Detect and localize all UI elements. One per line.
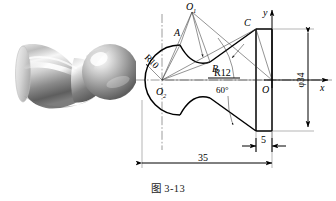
engineering-drawing: O 1 O 2 A B C O y x R10 R12 60° 35 5 φ34 bbox=[136, 0, 336, 178]
label-C: C bbox=[244, 17, 251, 28]
ball-handle-3d-render bbox=[0, 0, 140, 175]
handle-ball bbox=[82, 44, 138, 100]
dim-text-35: 35 bbox=[198, 152, 208, 163]
label-y-axis: y bbox=[262, 7, 268, 18]
drawing-canvas: O 1 O 2 A B C O y x R10 R12 60° 35 5 φ34 bbox=[136, 0, 336, 178]
label-x-axis: x bbox=[319, 82, 325, 93]
figure-page: O 1 O 2 A B C O y x R10 R12 60° 35 5 φ34… bbox=[0, 0, 336, 201]
label-O-origin: O bbox=[262, 84, 269, 95]
figure-caption: 图 3-13 bbox=[0, 180, 336, 195]
drawing-background bbox=[136, 0, 336, 178]
ball-handle-photo bbox=[0, 0, 140, 175]
dim-text-phi34: φ34 bbox=[296, 72, 306, 87]
label-O1-subscript: 1 bbox=[193, 7, 196, 14]
label-A: A bbox=[173, 27, 181, 38]
dim-text-5: 5 bbox=[261, 134, 266, 145]
label-r12: R12 bbox=[214, 67, 231, 78]
label-angle-60: 60° bbox=[216, 85, 229, 95]
